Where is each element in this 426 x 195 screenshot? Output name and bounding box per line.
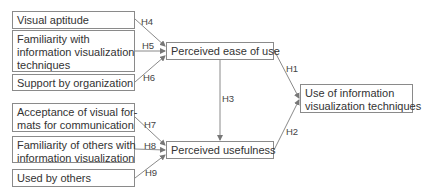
factor-familiarity: Familiarity with information visualizati… <box>12 30 135 72</box>
hypothesis-h4: H4 <box>141 16 153 27</box>
node-perceived-ease-of-use: Perceived ease of use <box>166 42 274 60</box>
node-use-of-info-vis: Use of information visualization techniq… <box>300 84 413 113</box>
hypothesis-h5: H5 <box>142 40 154 51</box>
hypothesis-h9: H9 <box>145 167 157 178</box>
hypothesis-h7: H7 <box>144 119 156 130</box>
hypothesis-h6: H6 <box>143 72 155 83</box>
hypothesis-h8: H8 <box>144 140 156 151</box>
hypothesis-h1: H1 <box>286 63 298 74</box>
factor-label-line: Acceptance of visual for- <box>17 106 130 119</box>
node-label-line: Use of information <box>305 87 408 100</box>
factor-label: Visual aptitude <box>17 14 89 26</box>
node-label: Perceived usefulness <box>171 144 276 156</box>
node-label: Perceived ease of use <box>171 45 280 57</box>
factor-label-line: Familiarity of others with <box>17 139 130 152</box>
hypothesis-h2: H2 <box>286 126 298 137</box>
factor-label-line: techniques <box>17 59 130 72</box>
factor-label-line: information visualization <box>17 152 130 165</box>
hypothesis-h3: H3 <box>222 93 234 104</box>
node-label-line: visualization techniques <box>305 100 408 113</box>
factor-used-by-others: Used by others <box>12 169 135 187</box>
factor-visual-aptitude: Visual aptitude <box>12 11 135 29</box>
factor-label: Support by organization <box>17 77 133 89</box>
factor-acceptance: Acceptance of visual for- mats for commu… <box>12 103 135 132</box>
factor-label: Used by others <box>17 172 91 184</box>
factor-familiarity-others: Familiarity of others with information v… <box>12 136 135 163</box>
node-perceived-usefulness: Perceived usefulness <box>166 141 274 159</box>
factor-label-line: mats for communication <box>17 119 130 132</box>
factor-support: Support by organization <box>12 74 135 91</box>
factor-label-line: Familiarity with <box>17 33 130 46</box>
factor-label-line: information visualization <box>17 46 130 59</box>
